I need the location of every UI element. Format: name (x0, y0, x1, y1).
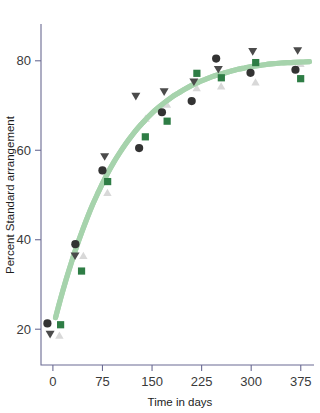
data-point-circle (135, 144, 143, 152)
data-point-square (57, 321, 64, 328)
chart-figure: 20406080 075150225300375 Time in days Pe… (0, 0, 320, 413)
data-point-circle (43, 319, 51, 327)
data-point-circle (246, 69, 254, 77)
data-point-square (252, 59, 259, 66)
data-point-circle (98, 166, 106, 174)
x-tick-label: 0 (49, 374, 56, 389)
y-tick-label: 40 (17, 232, 31, 247)
scatter-plot-canvas: 20406080 075150225300375 Time in days Pe… (0, 0, 320, 413)
data-point-circle (212, 54, 220, 62)
data-point-square (104, 178, 111, 185)
data-point-circle (71, 240, 79, 248)
data-point-circle (158, 108, 166, 116)
data-point-square (193, 70, 200, 77)
data-point-square (164, 118, 171, 125)
data-point-circle (188, 97, 196, 105)
x-tick-label: 300 (240, 374, 262, 389)
data-point-square (218, 74, 225, 81)
data-point-square (78, 267, 85, 274)
y-axis-title: Percent Standard arrangement (4, 115, 16, 274)
y-tick-label: 60 (17, 143, 31, 158)
y-tick-label: 80 (17, 53, 31, 68)
data-point-circle (291, 66, 299, 74)
data-point-square (297, 75, 304, 82)
x-tick-label: 225 (191, 374, 213, 389)
x-axis-title: Time in days (148, 396, 213, 408)
y-tick-label: 20 (17, 322, 31, 337)
x-tick-label: 375 (290, 374, 312, 389)
data-point-square (142, 133, 149, 140)
x-tick-label: 75 (95, 374, 109, 389)
x-tick-label: 150 (141, 374, 163, 389)
